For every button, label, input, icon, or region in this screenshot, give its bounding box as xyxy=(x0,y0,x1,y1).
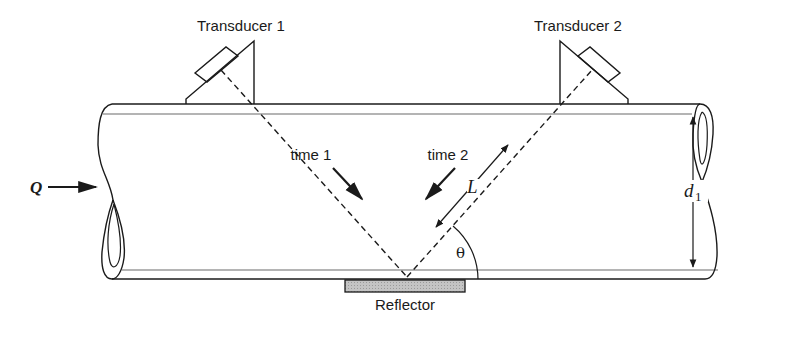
angle-label: θ xyxy=(456,244,465,262)
transducer-1-crystal xyxy=(195,47,238,82)
reflector-label: Reflector xyxy=(375,296,435,313)
time-1-arrow-icon xyxy=(333,168,362,199)
time-2-label: time 2 xyxy=(428,146,469,163)
transducer-2-label: Transducer 2 xyxy=(534,17,622,34)
acoustic-path-up xyxy=(407,70,592,277)
pipe-left-loop-inner xyxy=(108,204,121,267)
diameter-subscript: 1 xyxy=(695,189,702,204)
reflector-plate xyxy=(345,280,465,292)
flow-label: Q xyxy=(30,178,42,197)
pipe-left-break xyxy=(98,104,113,200)
ultrasonic-flowmeter-diagram: Transducer 1 Transducer 2 Reflector time… xyxy=(0,0,793,340)
transducer-1: Transducer 1 xyxy=(186,17,285,104)
reflector: Reflector xyxy=(345,280,465,313)
transducer-1-label: Transducer 1 xyxy=(197,17,285,34)
transducer-2: Transducer 2 xyxy=(534,17,628,104)
pipe xyxy=(98,104,718,279)
time-2-arrow-icon xyxy=(426,168,455,199)
time-1-label: time 1 xyxy=(291,146,332,163)
pipe-right-loop-inner xyxy=(698,112,707,164)
transducer-2-crystal xyxy=(578,47,620,82)
path-length-label: L xyxy=(466,176,478,197)
diameter-label: d xyxy=(684,180,694,201)
acoustic-path-down xyxy=(221,70,407,277)
pipe-right-loop xyxy=(693,104,713,182)
